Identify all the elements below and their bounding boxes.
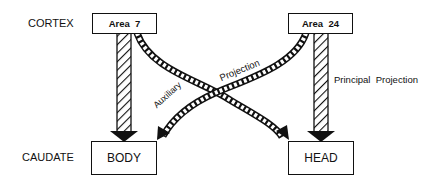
head-label: HEAD bbox=[304, 151, 337, 165]
body-label: BODY bbox=[107, 151, 141, 165]
principal-projection-right bbox=[307, 33, 335, 142]
area-7-box: Area 7 bbox=[92, 13, 157, 34]
head-box: HEAD bbox=[288, 141, 354, 175]
cortex-label: CORTEX bbox=[28, 17, 74, 29]
principal-projection-label: Principal Projection bbox=[334, 74, 418, 85]
body-box: BODY bbox=[91, 141, 157, 175]
caudate-label: CAUDATE bbox=[22, 151, 74, 163]
area-24-box: Area 24 bbox=[288, 13, 353, 34]
area-7-label: Area 7 bbox=[109, 18, 141, 29]
auxiliary-projection-7-to-head bbox=[137, 33, 289, 140]
principal-projection-left bbox=[110, 33, 138, 142]
area-24-label: Area 24 bbox=[302, 18, 339, 29]
